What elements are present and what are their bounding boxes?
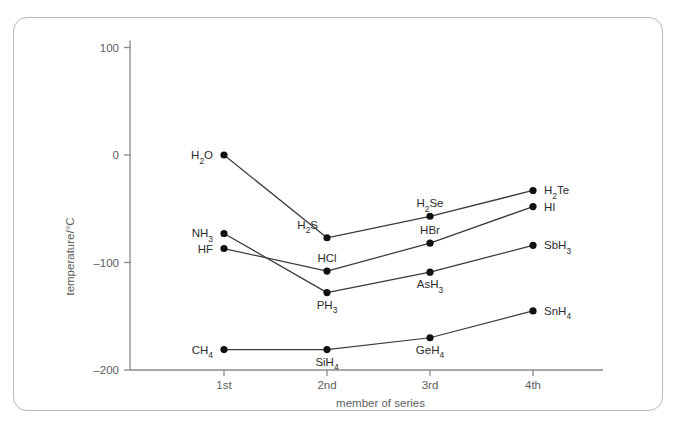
series-line-group-16-hydrides [224, 155, 533, 238]
chart-plot-area: 1000–100–2001st2nd3rd4th H2OH2SH2SeH2TeH… [0, 0, 676, 428]
data-point[interactable] [323, 234, 330, 241]
data-point-label: SnH4 [544, 305, 571, 322]
y-axis-tick-label: 0 [113, 149, 119, 161]
series-line-group-15-hydrides [224, 233, 533, 292]
series-line-group-17-hydrides [224, 207, 533, 272]
data-point[interactable] [220, 230, 227, 237]
y-axis-tick-label: –200 [93, 364, 119, 376]
series-group [220, 151, 536, 353]
data-point-label: H2Se [416, 197, 443, 214]
y-axis-title: temperature/°C [64, 217, 76, 295]
data-point-label: PH3 [317, 299, 338, 316]
data-point[interactable] [529, 307, 536, 314]
axes-group: 1000–100–2001st2nd3rd4th [93, 41, 603, 392]
hydride-boiling-point-chart: 1000–100–2001st2nd3rd4th H2OH2SH2SeH2TeH… [0, 0, 676, 428]
series-line-group-14-hydrides [224, 311, 533, 350]
axis-titles-group: member of seriestemperature/°C [64, 217, 425, 409]
data-point-label: HF [198, 243, 213, 255]
data-point-label: H2Te [544, 184, 569, 201]
data-point[interactable] [529, 203, 536, 210]
data-point[interactable] [323, 346, 330, 353]
data-point[interactable] [529, 187, 536, 194]
data-point-label: AsH3 [417, 278, 444, 295]
data-point[interactable] [220, 245, 227, 252]
data-point-label: NH3 [192, 227, 214, 244]
data-point-label: SbH3 [544, 239, 571, 256]
x-axis-tick-label: 2nd [317, 379, 336, 391]
data-point-label: H2O [191, 149, 213, 166]
x-axis-tick-label: 3rd [422, 379, 439, 391]
y-axis-tick-label: –100 [93, 257, 119, 269]
data-point-label: GeH4 [416, 344, 445, 361]
x-axis-tick-label: 4th [525, 379, 541, 391]
data-point[interactable] [323, 268, 330, 275]
data-point[interactable] [220, 346, 227, 353]
data-point[interactable] [426, 334, 433, 341]
point-labels-group: H2OH2SH2SeH2TeHFHClHBrHINH3PH3AsH3SbH3CH… [191, 149, 571, 372]
data-point-label: HBr [420, 224, 440, 236]
data-point-label: HI [544, 201, 556, 213]
data-point[interactable] [220, 151, 227, 158]
data-point-label: CH4 [192, 344, 214, 361]
y-axis-tick-label: 100 [100, 42, 119, 54]
data-point-label: HCl [317, 252, 336, 264]
data-point[interactable] [323, 289, 330, 296]
data-point-label: H2S [297, 219, 318, 236]
x-axis-tick-label: 1st [216, 379, 232, 391]
data-point[interactable] [426, 269, 433, 276]
data-point[interactable] [529, 242, 536, 249]
x-axis-title: member of series [336, 397, 425, 409]
data-point[interactable] [426, 240, 433, 247]
